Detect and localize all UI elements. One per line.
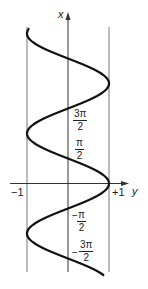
tick-label-pi-over-2: π 2 bbox=[75, 138, 84, 161]
numerator: 3π bbox=[73, 109, 87, 121]
x-axis-label: x bbox=[58, 9, 64, 20]
denominator: 2 bbox=[79, 222, 85, 233]
y-axis-label: y bbox=[132, 186, 138, 197]
x-axis-arrow-icon bbox=[66, 12, 71, 20]
numerator: π bbox=[77, 210, 86, 222]
tick-label-3pi-over-2: 3π 2 bbox=[73, 109, 87, 132]
tick-label-minus-3pi-over-2: 3π 2 bbox=[79, 240, 93, 263]
numerator: 3π bbox=[79, 240, 93, 252]
numerator: π bbox=[75, 138, 84, 150]
tick-label-plus-one: +1 bbox=[112, 187, 125, 198]
denominator: 2 bbox=[83, 252, 89, 263]
tick-label-minus-pi-over-2: π 2 bbox=[77, 210, 86, 233]
minus-sign-3pi-over-2: − bbox=[72, 247, 78, 258]
tick-label-minus-one: −1 bbox=[11, 187, 24, 198]
denominator: 2 bbox=[77, 150, 83, 161]
denominator: 2 bbox=[77, 121, 83, 132]
cosine-plot bbox=[0, 0, 148, 289]
